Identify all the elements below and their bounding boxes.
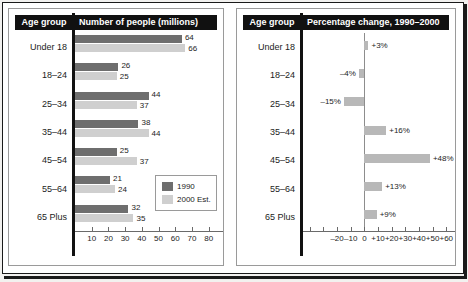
left-tick-60	[175, 227, 176, 232]
bar-label-2000-7: 35	[136, 215, 145, 223]
bar-label-2000-2: 25	[120, 73, 129, 81]
left-category-label-2: 18–24	[9, 70, 67, 80]
left-category-label-5: 45–54	[9, 155, 67, 165]
left-tick-80	[209, 227, 210, 232]
left-tick-70	[192, 227, 193, 232]
bar-2000-5	[75, 157, 137, 165]
bar-label-1990-6: 21	[113, 175, 122, 183]
panel-percentage-change: Age group Percentage change, 1990–2000 U…	[236, 8, 456, 266]
left-category-label-1: Under 18	[9, 42, 67, 52]
right-tick--40	[310, 227, 311, 232]
legend-swatch-2000	[162, 195, 173, 204]
left-x-axis	[75, 231, 223, 232]
bar-label-1990-1: 64	[185, 34, 194, 42]
legend-label-1990: 1990	[177, 182, 195, 191]
pct-bar-3	[344, 97, 364, 106]
right-header-age-group: Age group	[243, 15, 301, 30]
bar-label-2000-1: 66	[188, 45, 197, 53]
left-header-title: Number of people (millions)	[75, 15, 217, 30]
left-tick-label-80: 80	[197, 235, 221, 243]
bar-2000-6	[75, 185, 115, 193]
pct-bar-label-2: –4%	[335, 70, 356, 78]
right-tick-40	[419, 227, 420, 232]
pct-bar-label-1: +3%	[371, 42, 387, 50]
right-tick-30	[405, 227, 406, 232]
right-tick-20	[392, 227, 393, 232]
bar-label-2000-3: 37	[140, 102, 149, 110]
left-tick-50	[159, 227, 160, 232]
bar-1990-2	[75, 63, 118, 71]
bar-label-1990-5: 25	[120, 147, 129, 155]
right-tick-label-60: +60	[435, 235, 457, 243]
bar-2000-7	[75, 214, 133, 222]
right-category-labels: Under 1818–2425–3435–4445–5455–6465 Plus	[237, 33, 295, 231]
pct-bar-label-5: +48%	[433, 155, 454, 163]
left-category-labels: Under 1818–2425–3435–4445–5455–6465 Plus	[9, 33, 67, 231]
left-category-label-6: 55–64	[9, 184, 67, 194]
pct-bar-label-4: +16%	[389, 127, 410, 135]
right-category-label-4: 35–44	[237, 127, 295, 137]
pct-bar-label-7: +9%	[380, 211, 396, 219]
right-category-label-6: 55–64	[237, 184, 295, 194]
bar-2000-4	[75, 129, 149, 137]
left-category-label-7: 65 Plus	[9, 212, 67, 222]
right-category-label-5: 45–54	[237, 155, 295, 165]
pct-bar-label-6: +13%	[385, 183, 406, 191]
left-header-age-group: Age group	[15, 15, 73, 30]
left-tick-20	[108, 227, 109, 232]
panel-number-of-people: Age group Number of people (millions) Un…	[8, 8, 224, 266]
pct-bar-5	[364, 154, 429, 163]
bar-label-1990-3: 44	[152, 91, 161, 99]
left-tick-40	[142, 227, 143, 232]
bar-2000-2	[75, 72, 117, 80]
bar-1990-5	[75, 148, 117, 156]
left-tick-10	[92, 227, 93, 232]
right-tick-10	[378, 227, 379, 232]
right-category-label-2: 18–24	[237, 70, 295, 80]
left-category-label-3: 25–34	[9, 99, 67, 109]
left-category-label-4: 35–44	[9, 127, 67, 137]
bar-label-1990-4: 38	[141, 119, 150, 127]
pct-bar-label-3: –15%	[320, 98, 341, 106]
figure-root: Age group Number of people (millions) Un…	[0, 0, 468, 282]
right-tick-50	[433, 227, 434, 232]
bar-2000-1	[75, 44, 185, 52]
pct-bar-6	[364, 182, 382, 191]
right-tick--20	[337, 227, 338, 232]
pct-bar-2	[359, 69, 364, 78]
bar-label-2000-6: 24	[118, 186, 127, 194]
right-category-label-7: 65 Plus	[237, 212, 295, 222]
left-tick-30	[125, 227, 126, 232]
bar-label-2000-4: 44	[152, 130, 161, 138]
legend-swatch-1990	[162, 182, 173, 191]
pct-bar-7	[364, 210, 376, 219]
legend-label-2000: 2000 Est.	[177, 195, 211, 204]
pct-bar-4	[364, 126, 386, 135]
bar-label-2000-5: 37	[140, 158, 149, 166]
bar-1990-1	[75, 35, 182, 43]
bar-label-1990-2: 26	[121, 62, 130, 70]
bar-1990-7	[75, 205, 128, 213]
right-tick-60	[446, 227, 447, 232]
bar-1990-3	[75, 92, 149, 100]
right-tick--10	[351, 227, 352, 232]
right-plot-area: +3%–4%–15%+16%+48%+13%+9%–20–100+10+20+3…	[303, 33, 449, 231]
right-category-label-3: 25–34	[237, 99, 295, 109]
bar-label-1990-7: 32	[131, 204, 140, 212]
bar-1990-4	[75, 120, 138, 128]
right-tick-0	[364, 227, 365, 232]
bar-1990-6	[75, 176, 110, 184]
right-header-title: Percentage change, 1990–2000	[303, 15, 449, 30]
frame-shadow-bottom	[4, 276, 466, 279]
bar-2000-3	[75, 101, 137, 109]
right-tick--30	[323, 227, 324, 232]
frame-shadow-right	[464, 4, 467, 279]
pct-bar-1	[364, 41, 368, 50]
legend: 1990 2000 Est.	[155, 175, 217, 211]
right-category-label-1: Under 18	[237, 42, 295, 52]
